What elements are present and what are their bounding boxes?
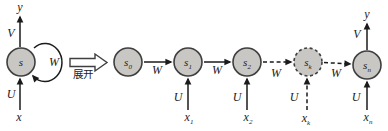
input-weight-label-x1: U — [174, 90, 184, 104]
input-group-xk: U xk — [290, 79, 311, 127]
input-weight-label-xn: U — [352, 90, 362, 104]
transition-weight-label-2: W — [271, 66, 282, 80]
folded-input-weight-label: U — [7, 87, 17, 101]
diagram-canvas: y V W s U x 展开 W W W W s0 s1 s2 sk — [0, 0, 388, 131]
rnn-unfold-diagram: y V W s U x 展开 W W W W s0 s1 s2 sk — [0, 0, 388, 131]
state-node-s-label: s — [19, 56, 23, 68]
transition-weight-label-0: W — [152, 63, 163, 77]
folded-output-weight-label: V — [7, 26, 16, 40]
transition-weight-label-1: W — [212, 63, 223, 77]
input-weight-label-x2: U — [233, 90, 243, 104]
folded-output-label: y — [16, 0, 23, 14]
unfold-arrow-group: 展开 — [70, 54, 107, 80]
output-group-sn: y V — [353, 7, 370, 50]
input-group-x1: U x1 — [174, 79, 194, 126]
folded-rnn: y V W s U x — [7, 0, 62, 124]
transition-arrow-sk-sn — [324, 63, 350, 65]
unfold-label: 展开 — [73, 68, 93, 80]
input-group-xn: U xn — [352, 82, 373, 126]
input-weight-label-xk: U — [290, 90, 300, 104]
input-label-xn: xn — [363, 110, 373, 126]
input-group-x2: U x2 — [233, 79, 253, 126]
input-label-x1: x1 — [184, 110, 194, 126]
folded-input-label: x — [15, 110, 22, 124]
transition-weight-label-3: W — [331, 66, 342, 80]
unrolled-chain: W W W W s0 s1 s2 sk sn U x1 U x2 — [114, 7, 381, 127]
chain-output-label: y — [363, 7, 370, 21]
chain-output-weight-label: V — [353, 27, 362, 41]
input-label-xk: xk — [301, 111, 311, 127]
input-label-x2: x2 — [243, 110, 253, 126]
self-loop-weight-label: W — [49, 55, 60, 69]
